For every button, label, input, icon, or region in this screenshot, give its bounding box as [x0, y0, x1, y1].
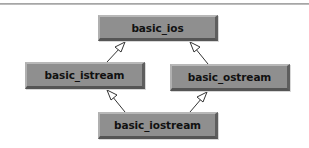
- node-label: basic_iostream: [114, 119, 201, 131]
- hollow-arrowhead-icon: [115, 42, 125, 52]
- hollow-arrowhead-icon: [190, 42, 200, 52]
- edge-istream-to-ios: [107, 42, 125, 62]
- hollow-arrowhead-icon: [107, 90, 117, 100]
- edge-ostream-to-ios: [190, 42, 208, 64]
- node-basic-istream: basic_istream: [25, 62, 145, 89]
- node-label: basic_ostream: [188, 71, 271, 83]
- node-basic-ios: basic_ios: [98, 15, 218, 41]
- node-label: basic_istream: [45, 69, 125, 81]
- node-label: basic_ios: [131, 22, 183, 34]
- hollow-arrowhead-icon: [197, 92, 207, 102]
- edge-iostream-to-ostream: [190, 92, 207, 112]
- node-basic-iostream: basic_iostream: [98, 112, 218, 139]
- node-basic-ostream: basic_ostream: [170, 64, 290, 91]
- top-divider: [0, 3, 309, 5]
- edge-iostream-to-istream: [107, 90, 125, 112]
